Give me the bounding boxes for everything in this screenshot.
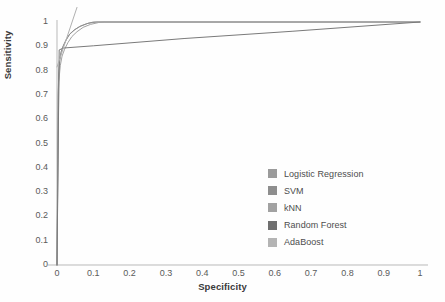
- legend-swatch: [268, 203, 277, 212]
- legend-label: Random Forest: [284, 220, 347, 230]
- legend-label: SVM: [284, 186, 304, 196]
- legend-label: kNN: [284, 203, 302, 213]
- legend-swatch: [268, 221, 277, 230]
- legend-item: Random Forest: [268, 217, 408, 233]
- legend-label: AdaBoost: [284, 237, 323, 247]
- legend-item: SVM: [268, 183, 408, 199]
- legend-swatch: [268, 169, 277, 178]
- roc-chart: Sensitivity Specificity 00.10.20.30.40.5…: [0, 0, 445, 302]
- plot-area: [0, 0, 445, 302]
- legend-item: AdaBoost: [268, 234, 408, 250]
- legend-label: Logistic Regression: [284, 169, 364, 179]
- legend-item: kNN: [268, 200, 408, 216]
- roc-curve: [57, 7, 77, 67]
- legend-swatch: [268, 186, 277, 195]
- legend-item: Logistic Regression: [268, 166, 408, 182]
- legend-swatch: [268, 238, 277, 247]
- legend: Logistic RegressionSVMkNNRandom ForestAd…: [268, 166, 408, 251]
